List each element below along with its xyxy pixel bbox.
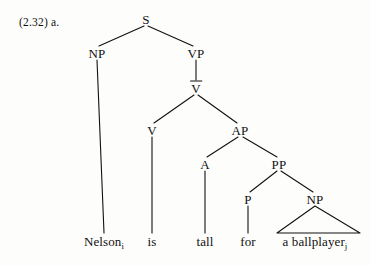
tree-edge-pp-np2 (281, 171, 313, 192)
tree-line-layer (0, 0, 371, 266)
tree-node-ap: AP (231, 124, 248, 137)
tree-terminal-tall: tall (196, 235, 213, 248)
tree-edge-np1-t-nelson (97, 60, 104, 233)
tree-node-vp: VP (187, 47, 204, 60)
terminal-word-text: is (148, 234, 157, 249)
terminal-index-subscript: j (345, 240, 348, 250)
node-label-text: P (244, 192, 251, 207)
node-label-text: V (147, 123, 157, 138)
terminal-word-text: for (240, 234, 255, 249)
tree-edge-ap-a (207, 137, 238, 157)
terminal-word-text: a ballplayer (283, 234, 345, 249)
tree-edge-ap-pp (243, 137, 277, 157)
tree-triangle-tri-np2 (277, 206, 360, 233)
tree-node-p: P (244, 193, 251, 206)
tree-node-pp: PP (272, 158, 287, 171)
tree-edge-s-np1 (99, 26, 144, 46)
tree-terminal-is: is (148, 235, 157, 248)
example-number: (2.32) a. (19, 17, 59, 29)
tree-edge-vbar-v (154, 95, 194, 123)
tree-node-np1: NP (88, 47, 105, 60)
syntax-tree-figure: (2.32) a. SNPVPVVAPAPPPNP Nelsoniistallf… (0, 0, 371, 266)
tree-terminal-nelson: Nelsoni (84, 235, 124, 248)
tree-edges (97, 26, 313, 233)
tree-edge-vbar-ap (198, 95, 237, 123)
node-label-text: A (200, 157, 210, 172)
node-label-text: S (142, 12, 149, 27)
terminal-index-subscript: i (121, 240, 124, 250)
tree-node-vbar: V (191, 82, 201, 95)
node-label-text: AP (231, 123, 248, 138)
terminal-word-text: Nelson (84, 234, 121, 249)
tree-node-v: V (147, 124, 157, 137)
tree-edge-pp-p (250, 171, 277, 192)
node-label-text: NP (88, 46, 105, 61)
terminal-word-text: tall (196, 234, 213, 249)
bar-level-node-text: V (191, 82, 201, 95)
tree-terminal-for: for (240, 235, 255, 248)
node-label-text: NP (306, 192, 323, 207)
tree-node-np2: NP (306, 193, 323, 206)
tree-terminal-ballplayer: a ballplayerj (283, 235, 348, 248)
node-label-text: VP (187, 46, 204, 61)
node-label-text: V (191, 81, 201, 96)
node-label-text: PP (272, 157, 287, 172)
tree-triangles (277, 206, 360, 233)
overbar-mark (190, 80, 202, 81)
tree-node-a: A (200, 158, 210, 171)
tree-node-s: S (142, 13, 149, 26)
tree-edge-s-vp (148, 26, 193, 46)
